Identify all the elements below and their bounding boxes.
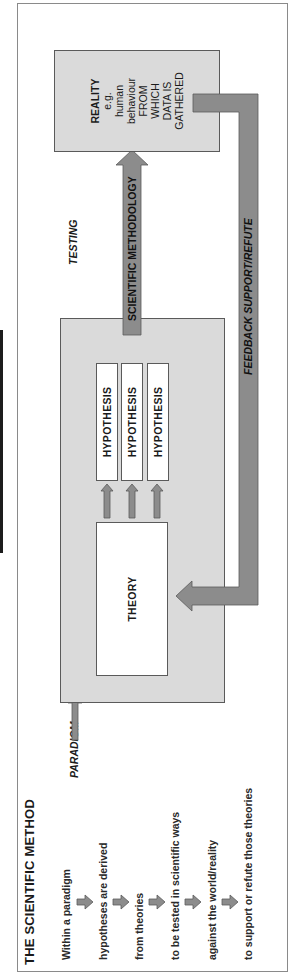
- scientific-method-diagram: THE SCIENTIFIC METHOD Within a paradigm …: [0, 0, 292, 975]
- feedback-arrow: [0, 0, 292, 975]
- feedback-arrow-label: FEEDBACK SUPPORT/REFUTE: [242, 218, 254, 375]
